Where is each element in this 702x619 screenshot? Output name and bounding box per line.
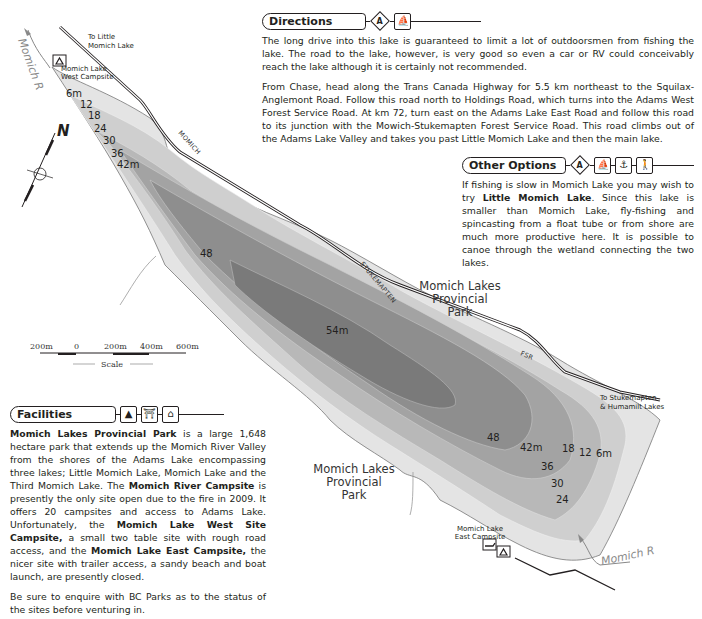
other-options-section: Other Options A ⛵ ⚓ 🚶 If fishing is slow… <box>462 155 694 276</box>
svg-text:0: 0 <box>74 342 79 351</box>
svg-text:East Campsite: East Campsite <box>455 533 505 541</box>
svg-text:Momich R: Momich R <box>600 544 656 568</box>
anchor-icon: ⚓ <box>615 157 632 174</box>
facilities-paragraph-1: Momich Lakes Provincial Park is a large … <box>10 427 266 583</box>
access-a-icon: A <box>370 11 390 31</box>
other-options-title: Other Options <box>462 157 566 174</box>
svg-text:Park: Park <box>448 305 473 319</box>
scale-bar: 200m 0 200m 400m 600m Scale <box>30 342 199 369</box>
svg-text:48: 48 <box>200 248 213 259</box>
inlet-stream-west <box>120 256 156 305</box>
west-campsite: Momich Lake West Campsite <box>53 55 114 81</box>
svg-text:To Stukemapten: To Stukemapten <box>599 394 656 402</box>
svg-text:18: 18 <box>562 443 575 454</box>
canoe-icon: ⛵ <box>594 157 611 174</box>
hiking-icon: 🚶 <box>636 157 653 174</box>
svg-text:Momich Lake: Momich Lake <box>61 65 107 73</box>
svg-text:Momich Lake: Momich Lake <box>88 42 134 50</box>
svg-text:Momich Lake: Momich Lake <box>457 525 503 533</box>
svg-text:Momich R: Momich R <box>15 37 46 92</box>
boat-launch-icon: ⛵ <box>394 13 411 30</box>
svg-text:To Little: To Little <box>87 33 115 41</box>
directions-title: Directions <box>262 13 366 30</box>
svg-text:200m: 200m <box>104 342 127 351</box>
label-to-stukemapten: To Stukemapten & Humamilt Lakes <box>599 394 664 411</box>
directions-paragraph-2: From Chase, head along the Trans Canada … <box>262 80 694 145</box>
svg-text:24: 24 <box>94 123 107 134</box>
svg-text:N: N <box>57 122 70 140</box>
label-park-south: Momich Lakes Provincial Park <box>313 462 394 502</box>
inlet-stream-south <box>410 472 413 515</box>
svg-text:& Humamilt Lakes: & Humamilt Lakes <box>600 403 664 411</box>
campsite-icon: ▲ <box>120 406 137 423</box>
svg-text:Park: Park <box>342 488 367 502</box>
road-south <box>515 558 615 590</box>
svg-text:36: 36 <box>541 461 554 472</box>
river-north: Momich R <box>15 28 50 92</box>
svg-text:12: 12 <box>80 99 93 110</box>
svg-text:400m: 400m <box>140 342 163 351</box>
svg-text:42m: 42m <box>520 442 542 453</box>
access-a-icon: A <box>570 155 590 175</box>
svg-text:200m: 200m <box>30 342 53 351</box>
svg-text:30: 30 <box>551 478 564 489</box>
svg-text:36: 36 <box>111 148 124 159</box>
label-to-little-momich: To Little Momich Lake <box>87 33 134 50</box>
svg-text:6m: 6m <box>596 448 612 459</box>
svg-text:600m: 600m <box>176 342 199 351</box>
svg-text:West Campsite: West Campsite <box>61 73 114 81</box>
svg-text:30: 30 <box>103 135 116 146</box>
facilities-section: Facilities ▲ ⛩ ⌂ Momich Lakes Provincial… <box>10 404 266 619</box>
svg-text:54m: 54m <box>326 325 348 336</box>
picnic-table-icon: ⛩ <box>141 406 158 423</box>
facilities-title: Facilities <box>10 406 116 423</box>
svg-text:Momich Lakes: Momich Lakes <box>419 279 500 293</box>
east-campsite: Momich Lake East Campsite <box>455 525 510 557</box>
svg-text:6m: 6m <box>66 88 82 99</box>
svg-text:24: 24 <box>556 494 569 505</box>
svg-text:Scale: Scale <box>101 360 123 369</box>
svg-text:48: 48 <box>487 432 500 443</box>
directions-section: Directions A ⛵ The long drive into this … <box>262 11 694 152</box>
svg-text:Provincial: Provincial <box>432 292 487 306</box>
compass-north-arrow: N <box>22 122 70 207</box>
svg-text:Momich Lakes: Momich Lakes <box>313 462 394 476</box>
outhouse-icon: ⌂ <box>162 406 179 423</box>
svg-text:18: 18 <box>88 110 101 121</box>
facilities-paragraph-2: Be sure to enquire with BC Parks as to t… <box>10 590 266 616</box>
directions-paragraph-1: The long drive into this lake is guarant… <box>262 34 694 73</box>
svg-text:42m: 42m <box>117 159 139 170</box>
svg-text:Provincial: Provincial <box>326 475 381 489</box>
svg-text:12: 12 <box>579 447 592 458</box>
other-options-paragraph: If fishing is slow in Momich Lake you ma… <box>462 178 694 269</box>
